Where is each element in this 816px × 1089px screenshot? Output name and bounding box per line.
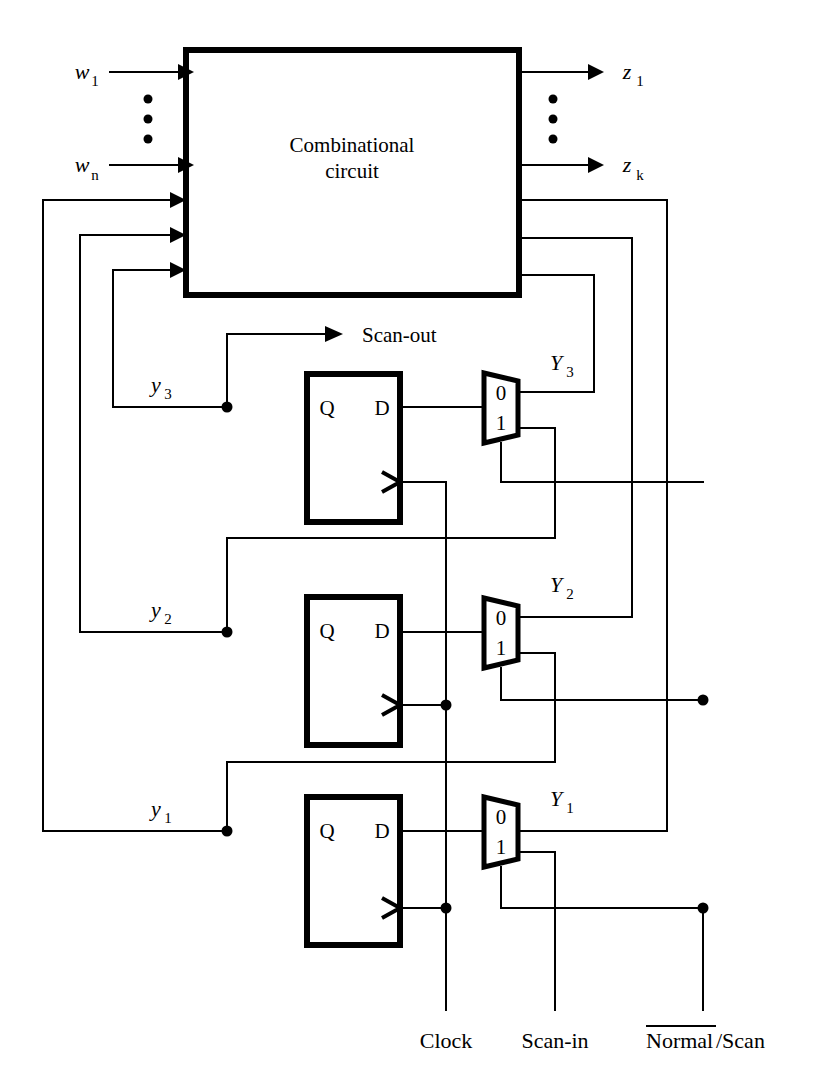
nextstate-Y2-label: Y: [550, 572, 565, 597]
nextstate-Y3-label: Y: [550, 350, 565, 375]
nextstate-Y3-subscript: 3: [566, 364, 574, 380]
output-ellipsis-dot-3: [549, 135, 558, 144]
scan-port-label: /Scan: [716, 1028, 765, 1053]
normal-port-label: Normal: [646, 1028, 713, 1053]
output-z1-label: z: [622, 59, 632, 84]
mux-1-scan-in-wire: [518, 852, 555, 1010]
input-w1-subscript: 1: [91, 73, 99, 89]
mux-3-select-wire: [501, 443, 703, 482]
input-wn-label: w: [75, 152, 90, 177]
mux-1-input-1-label: 1: [496, 835, 507, 859]
state-y3-label: y: [149, 372, 161, 397]
state-y3-subscript: 3: [164, 386, 172, 402]
mux-2-select-wire: [501, 668, 703, 700]
output-zk-label: z: [622, 152, 632, 177]
output-zk-subscript: k: [636, 167, 644, 183]
scan-in-port-label: Scan-in: [521, 1028, 588, 1053]
flipflop-1-d-pin: D: [374, 819, 389, 843]
state-y1-label: y: [149, 796, 161, 821]
state-y2-subscript: 2: [164, 611, 172, 627]
combinational-circuit-label-line2: circuit: [325, 159, 379, 183]
flipflop-3-q-pin: Q: [319, 396, 334, 420]
nextstate-Y1-subscript: 1: [566, 800, 574, 816]
mux-1-select-wire: [501, 867, 703, 908]
input-wn-subscript: n: [91, 167, 99, 183]
state-y1-subscript: 1: [164, 810, 172, 826]
junction-y3-node: [222, 402, 233, 413]
scan-out-label: Scan-out: [362, 323, 437, 347]
mux-3-input-1-label: 1: [496, 411, 507, 435]
output-ellipsis-dot-2: [549, 115, 558, 124]
flipflop-1-q-pin: Q: [319, 819, 334, 843]
junction-normalscan-mux2: [698, 695, 709, 706]
scan-out-arrowhead: [325, 326, 343, 342]
clock-port-label: Clock: [420, 1028, 473, 1053]
input-ellipsis-dot-1: [144, 95, 153, 104]
flipflop-2-d-pin: D: [374, 619, 389, 643]
state-y2-label: y: [149, 597, 161, 622]
junction-clock-ff2: [441, 700, 452, 711]
output-z1-subscript: 1: [636, 73, 644, 89]
circuit-svg: Combinational circuit w 1 w n z 1 z k y …: [0, 0, 816, 1089]
nextstate-Y1-label: Y: [550, 786, 565, 811]
junction-y1-node: [222, 826, 233, 837]
combinational-circuit-label-line1: Combinational: [290, 133, 415, 157]
output-zk-arrowhead: [588, 157, 604, 173]
input-ellipsis-dot-3: [144, 135, 153, 144]
mux-2-input-0-label: 0: [496, 606, 507, 630]
mux-3-input-0-label: 0: [496, 381, 507, 405]
flipflop-3-d-pin: D: [374, 396, 389, 420]
input-ellipsis-dot-2: [144, 115, 153, 124]
flipflop-2-q-pin: Q: [319, 619, 334, 643]
mux-2-input-1-label: 1: [496, 636, 507, 660]
nextstate-Y2-subscript: 2: [566, 586, 574, 602]
output-ellipsis-dot-1: [549, 95, 558, 104]
circuit-diagram: Combinational circuit w 1 w n z 1 z k y …: [0, 0, 816, 1089]
nextstate-path-Y1: [518, 200, 667, 831]
junction-y2-node: [222, 627, 233, 638]
flipflop-3-clock-wire: [400, 482, 446, 1010]
junction-clock-ff1: [441, 903, 452, 914]
input-w1-label: w: [75, 59, 90, 84]
output-z1-arrowhead: [588, 64, 604, 80]
mux-1-input-0-label: 0: [496, 805, 507, 829]
